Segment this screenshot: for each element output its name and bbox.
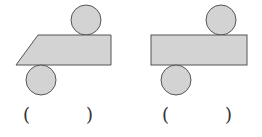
- net-a: [16, 5, 111, 95]
- top-circle: [71, 5, 101, 35]
- top-circle: [206, 5, 236, 35]
- net-b: [151, 5, 247, 95]
- answer-right-paren-b: ): [225, 104, 232, 125]
- parallelogram: [16, 35, 111, 65]
- rectangle: [151, 35, 247, 65]
- answer-right-paren-a: ): [86, 104, 93, 125]
- bottom-circle: [26, 65, 56, 95]
- answer-left-paren-b: (: [162, 104, 169, 125]
- bottom-circle: [161, 65, 191, 95]
- answer-left-paren-a: (: [23, 104, 30, 125]
- figures-canvas: [0, 0, 262, 137]
